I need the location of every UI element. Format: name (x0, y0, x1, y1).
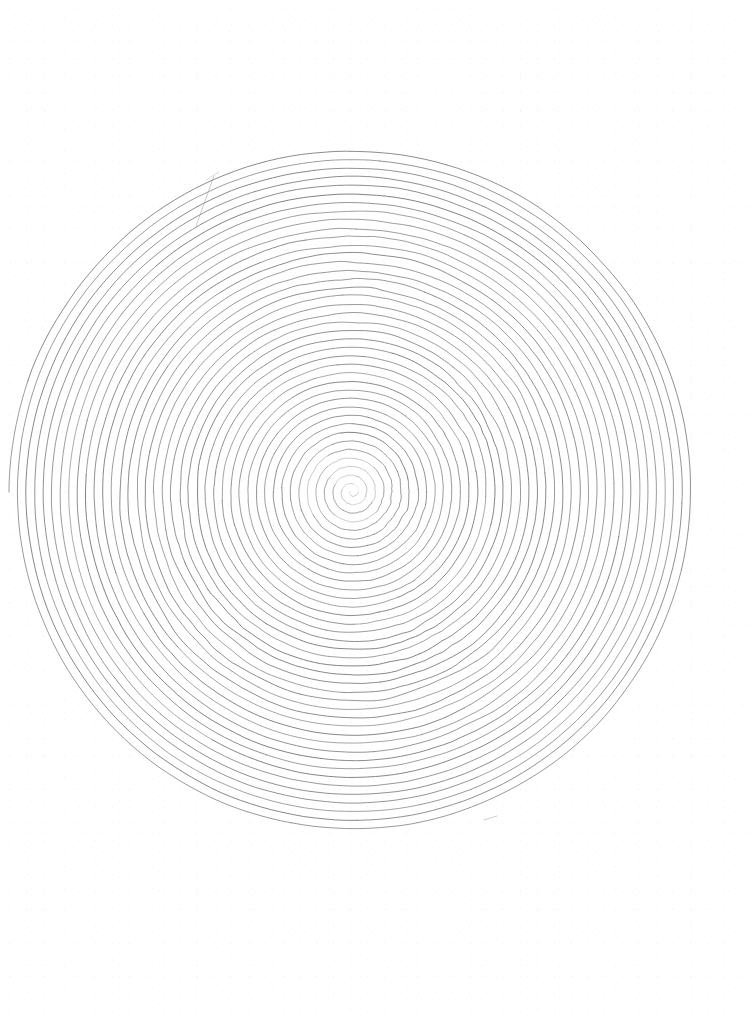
artwork-canvas: A single continuous freehand spiral line… (0, 0, 750, 1014)
spiral-drawing (0, 0, 750, 1014)
